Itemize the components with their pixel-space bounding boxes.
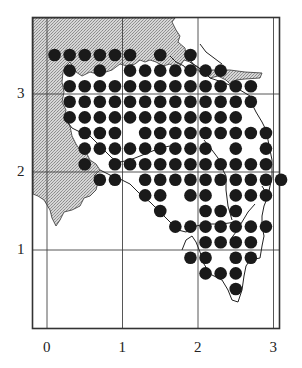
occurrence-dot [78, 158, 91, 171]
occurrence-dot [229, 267, 242, 280]
occurrence-dot [214, 111, 227, 124]
occurrence-dot [184, 142, 197, 155]
occurrence-dot [184, 64, 197, 77]
occurrence-dot [109, 111, 122, 124]
occurrence-dot [199, 189, 212, 202]
occurrence-dot [245, 127, 258, 140]
x-tick-label: 2 [194, 340, 202, 355]
occurrence-dot [184, 49, 197, 62]
occurrence-dot [214, 80, 227, 93]
occurrence-dot [184, 174, 197, 187]
occurrence-dot [78, 111, 91, 124]
occurrence-dot [139, 174, 152, 187]
occurrence-dot [260, 220, 273, 233]
x-tick-label: 3 [270, 340, 278, 355]
occurrence-dot [260, 174, 273, 187]
occurrence-dot [245, 220, 258, 233]
occurrence-dot [214, 127, 227, 140]
occurrence-dot [169, 80, 182, 93]
occurrence-dot [199, 220, 212, 233]
occurrence-dot [229, 283, 242, 296]
occurrence-dot [78, 142, 91, 155]
occurrence-dot [94, 127, 107, 140]
y-tick-label: 2 [17, 164, 25, 179]
y-tick-label: 1 [17, 242, 25, 257]
occurrence-dot [48, 49, 61, 62]
occurrence-dot [184, 111, 197, 124]
occurrence-dot [260, 127, 273, 140]
occurrence-dot [154, 64, 167, 77]
occurrence-dot [109, 80, 122, 93]
occurrence-dot [78, 127, 91, 140]
occurrence-dot [169, 111, 182, 124]
occurrence-dot [154, 174, 167, 187]
occurrence-dot [139, 111, 152, 124]
occurrence-dot [184, 189, 197, 202]
occurrence-dot [169, 142, 182, 155]
occurrence-dot [109, 127, 122, 140]
occurrence-dot [245, 158, 258, 171]
occurrence-dot [199, 236, 212, 249]
occurrence-dot [229, 205, 242, 218]
occurrence-dot [124, 64, 137, 77]
occurrence-dot [139, 96, 152, 109]
occurrence-dot [229, 96, 242, 109]
occurrence-dot [245, 236, 258, 249]
occurrence-dot [199, 127, 212, 140]
occurrence-dot [154, 189, 167, 202]
occurrence-dot [169, 174, 182, 187]
occurrence-dot [245, 189, 258, 202]
occurrence-dot [214, 236, 227, 249]
occurrence-dot [229, 251, 242, 264]
occurrence-dot [94, 96, 107, 109]
occurrence-dot [124, 96, 137, 109]
occurrence-dot [184, 80, 197, 93]
occurrence-dot [63, 64, 76, 77]
distribution-map [0, 0, 302, 368]
y-tick-label: 3 [17, 86, 25, 101]
occurrence-dot [260, 158, 273, 171]
occurrence-dot [63, 96, 76, 109]
occurrence-dot [229, 158, 242, 171]
occurrence-dot [94, 174, 107, 187]
occurrence-dot [124, 49, 137, 62]
occurrence-dot [139, 189, 152, 202]
occurrence-dot [169, 64, 182, 77]
occurrence-dot [199, 64, 212, 77]
occurrence-dot [139, 64, 152, 77]
occurrence-dot [229, 127, 242, 140]
occurrence-dot [139, 158, 152, 171]
occurrence-dot [154, 96, 167, 109]
occurrence-dot [199, 251, 212, 264]
occurrence-dot [214, 220, 227, 233]
occurrence-dot [154, 80, 167, 93]
occurrence-dot [229, 142, 242, 155]
occurrence-dot [109, 142, 122, 155]
occurrence-dot [78, 49, 91, 62]
occurrence-dot [214, 158, 227, 171]
occurrence-dot [63, 49, 76, 62]
occurrence-dot [214, 205, 227, 218]
occurrence-dot [245, 174, 258, 187]
occurrence-dot [199, 142, 212, 155]
occurrence-dot [199, 158, 212, 171]
x-tick-label: 0 [43, 340, 51, 355]
occurrence-dot [109, 96, 122, 109]
occurrence-dot [260, 189, 273, 202]
occurrence-dot [229, 236, 242, 249]
occurrence-dot [63, 80, 76, 93]
occurrence-dot [154, 111, 167, 124]
occurrence-dot [214, 174, 227, 187]
occurrence-dot [169, 127, 182, 140]
occurrence-dot [63, 111, 76, 124]
occurrence-dot [214, 96, 227, 109]
occurrence-dot [199, 174, 212, 187]
occurrence-dot [184, 127, 197, 140]
occurrence-dot [94, 49, 107, 62]
occurrence-dot [229, 220, 242, 233]
occurrence-dot [229, 111, 242, 124]
occurrence-dot [78, 80, 91, 93]
occurrence-dot [199, 80, 212, 93]
occurrence-dot [124, 111, 137, 124]
occurrence-dot [139, 127, 152, 140]
